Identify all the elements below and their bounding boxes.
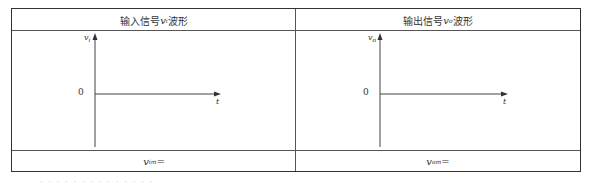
input-axes-icon [12, 31, 296, 151]
header-suffix: 波形 [168, 13, 188, 28]
header-text: 输出信号 [403, 13, 443, 28]
y-axis-label: vo [368, 33, 376, 43]
output-axes-icon [296, 31, 580, 151]
x-axis-label: t [503, 97, 506, 106]
x-axis-label: t [216, 97, 219, 106]
waveform-table: 输入信号 vi波形 输出信号 vo波形 vi 0 t vo 0 t vim= v… [11, 8, 581, 172]
origin-label: 0 [363, 87, 369, 97]
output-amplitude-field[interactable]: vom= [296, 151, 580, 172]
header-suffix: 波形 [453, 13, 473, 28]
input-waveform-plot[interactable]: vi 0 t [12, 31, 296, 151]
input-waveform-header: 输入信号 vi波形 [12, 9, 296, 31]
output-waveform-header: 输出信号 vo波形 [296, 9, 580, 31]
footer-subscript: om [432, 158, 441, 165]
footer-equals: = [156, 156, 164, 167]
y-axis-label: vi [84, 33, 90, 43]
input-amplitude-field[interactable]: vim= [12, 151, 296, 172]
header-text: 输入信号 [120, 13, 160, 28]
cut-off-caption: · · · · · · · · · · · · · · [40, 178, 340, 186]
output-waveform-plot[interactable]: vo 0 t [296, 31, 580, 151]
origin-label: 0 [78, 87, 84, 97]
footer-subscript: im [149, 158, 157, 165]
footer-equals: = [441, 156, 449, 167]
